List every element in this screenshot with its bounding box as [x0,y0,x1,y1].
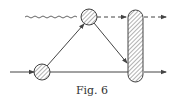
lower-vertex-circle [34,64,50,80]
incoming-wavy-line [25,16,77,18]
diagonal-lower-to-upper [47,24,84,66]
diagonal-upper-to-blob [94,23,127,63]
upper-vertex-circle [81,9,97,25]
figure-caption: Fig. 6 [0,84,180,97]
blob-bar [128,10,143,82]
